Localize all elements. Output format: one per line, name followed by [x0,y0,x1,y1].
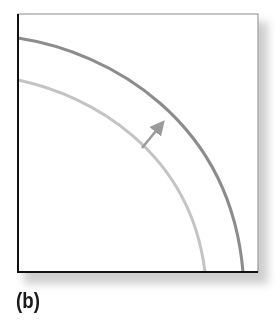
panel-label: (b) [16,288,40,314]
panel-frame [18,14,258,272]
ppf-diagram [0,0,277,322]
